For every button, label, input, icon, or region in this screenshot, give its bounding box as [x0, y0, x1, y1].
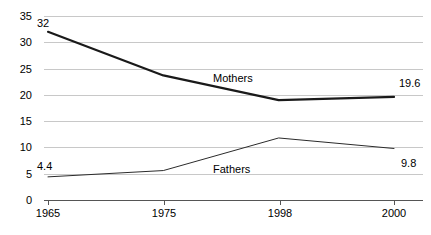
- data-label-fathers-start: 4.4: [37, 161, 52, 172]
- x-axis-tick-label: 1965: [36, 208, 60, 219]
- series-line-mothers: [48, 32, 394, 100]
- x-axis-tick-mark: [48, 200, 49, 205]
- x-axis-tick-mark: [394, 200, 395, 205]
- y-axis-tick-label: 10: [4, 142, 32, 153]
- x-axis-tick-label: 1998: [268, 208, 292, 219]
- y-axis-tick-label: 30: [4, 37, 32, 48]
- y-axis: 0 5 10 15 20 25 30 35: [0, 0, 32, 235]
- data-label-mothers-end: 19.6: [399, 78, 420, 89]
- y-axis-tick-label: 20: [4, 89, 32, 100]
- y-axis-tick-label: 25: [4, 63, 32, 74]
- x-axis-tick-mark: [280, 200, 281, 205]
- x-axis-tick-label: 1975: [152, 208, 176, 219]
- data-label-mothers-start: 32: [37, 18, 49, 29]
- y-axis-tick-label: 5: [4, 168, 32, 179]
- x-axis-tick-label: 2000: [382, 208, 406, 219]
- y-axis-tick-label: 15: [4, 116, 32, 127]
- series-label-mothers: Mothers: [213, 73, 253, 84]
- x-axis: 1965 1975 1998 2000: [0, 208, 431, 224]
- series-label-fathers: Fathers: [213, 164, 250, 175]
- x-axis-line: [44, 200, 423, 201]
- y-axis-tick-label: 0: [4, 195, 32, 206]
- y-axis-tick-label: 35: [4, 11, 32, 22]
- line-chart: 0 5 10 15 20 25 30 35 1965 1975 1998 200…: [0, 0, 431, 235]
- x-axis-tick-mark: [164, 200, 165, 205]
- data-label-fathers-end: 9.8: [401, 158, 416, 169]
